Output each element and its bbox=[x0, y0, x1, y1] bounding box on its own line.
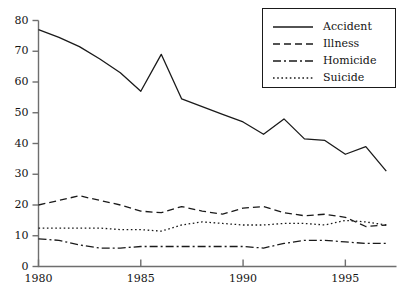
legend-line-sample-suicide bbox=[272, 72, 314, 84]
y-axis-tick-label: 70 bbox=[3, 45, 29, 56]
legend-item-illness[interactable]: Illness bbox=[263, 35, 395, 52]
y-axis-tick-label: 40 bbox=[3, 138, 29, 149]
legend-item-suicide[interactable]: Suicide bbox=[263, 69, 395, 86]
y-axis-tick-label: 60 bbox=[3, 76, 29, 87]
y-axis-tick-label: 20 bbox=[3, 199, 29, 210]
y-axis-tick-label: 10 bbox=[3, 230, 29, 241]
chart-legend: AccidentIllnessHomicideSuicide bbox=[262, 8, 396, 88]
legend-item-homicide[interactable]: Homicide bbox=[263, 52, 395, 69]
y-axis-tick-label: 50 bbox=[3, 107, 29, 118]
y-axis-tick-label: 80 bbox=[3, 15, 29, 26]
legend-label: Illness bbox=[323, 38, 359, 49]
x-axis-tick-label: 1985 bbox=[116, 273, 166, 284]
series-line-suicide bbox=[39, 220, 387, 231]
series-line-illness bbox=[39, 196, 387, 227]
legend-label: Accident bbox=[323, 21, 372, 32]
legend-line-sample-homicide bbox=[272, 55, 314, 67]
y-axis-tick-label: 30 bbox=[3, 168, 29, 179]
line-chart: 010203040506070801980198519901995 Accide… bbox=[0, 0, 407, 291]
legend-line-sample-accident bbox=[272, 21, 314, 33]
legend-label: Homicide bbox=[323, 55, 376, 66]
legend-label: Suicide bbox=[323, 72, 364, 83]
y-axis-tick-label: 0 bbox=[3, 261, 29, 272]
legend-item-accident[interactable]: Accident bbox=[263, 18, 395, 35]
x-axis-tick-label: 1995 bbox=[320, 273, 370, 284]
legend-line-sample-illness bbox=[272, 38, 314, 50]
x-axis-tick-label: 1980 bbox=[14, 273, 64, 284]
series-line-homicide bbox=[39, 239, 387, 248]
x-axis-tick-label: 1990 bbox=[218, 273, 268, 284]
